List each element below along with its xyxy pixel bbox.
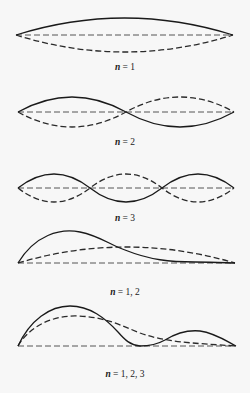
mode-n1-2 xyxy=(18,231,235,263)
mode-n1-2-3 xyxy=(18,306,236,346)
wave-solid-sum xyxy=(18,306,236,346)
caption-n2: n = 2 xyxy=(0,137,250,147)
wave-dashed xyxy=(16,35,233,52)
mode-n3 xyxy=(18,174,234,202)
wave-solid xyxy=(16,18,233,35)
mode-n1 xyxy=(16,18,233,52)
caption-n3: n = 3 xyxy=(0,213,250,223)
standing-wave-figure xyxy=(0,0,250,393)
caption-n1-2-3: n = 1, 2, 3 xyxy=(0,369,250,379)
caption-n1: n = 1 xyxy=(0,62,250,72)
wave-dashed-n1 xyxy=(18,247,235,263)
mode-n2 xyxy=(18,97,234,127)
caption-n1-2: n = 1, 2 xyxy=(0,287,250,297)
